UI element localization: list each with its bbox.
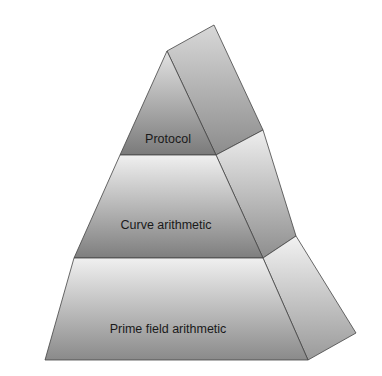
layer-label-prime-field-arithmetic: Prime field arithmetic [110,322,227,336]
layer-prime-field-arithmetic [45,258,308,360]
layer-label-curve-arithmetic: Curve arithmetic [121,218,212,232]
pyramid-diagram [0,0,382,376]
layer-label-protocol: Protocol [145,132,191,146]
